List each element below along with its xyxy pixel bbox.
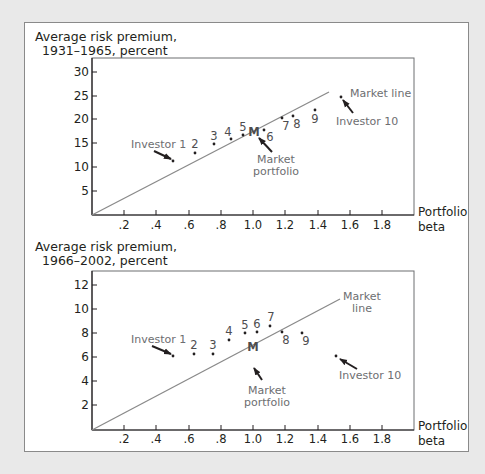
top-investor10-arrow-icon (343, 100, 353, 113)
top-point-label: 9 (311, 112, 318, 126)
bottom-xlabel-line1: Portfolio (418, 419, 467, 433)
bottom-xtick-label: 1.0 (244, 432, 262, 446)
top-ytick-label: 5 (81, 184, 89, 198)
top-ytick-label: 25 (74, 89, 89, 103)
bottom-title-line2: 1966–2002, percent (42, 253, 168, 268)
chart-bottom: Average risk premium, 1966–2002, percent… (35, 239, 467, 448)
top-xtick-label: 1.2 (276, 218, 294, 232)
top-xtick-label: .6 (184, 218, 195, 232)
top-title-line2: 1931–1965, percent (42, 43, 168, 58)
top-point-label: 8 (293, 117, 300, 131)
bottom-market-marker: M (247, 340, 258, 354)
bottom-xtick-label: .6 (184, 432, 195, 446)
bottom-point-label: 2 (190, 338, 197, 352)
top-point-label: 4 (224, 125, 231, 139)
bottom-xtick-label: 1.6 (341, 432, 359, 446)
bottom-y-ticks (92, 285, 97, 405)
figure-svg: Average risk premium, 1931–1965, percent… (0, 0, 485, 474)
bottom-xlabel-line2: beta (418, 434, 445, 448)
bottom-x-ticks (124, 425, 382, 430)
top-ytick-label: 20 (74, 112, 89, 126)
bottom-point-label: 9 (302, 334, 309, 348)
top-point-label: 7 (282, 119, 289, 133)
top-x-ticks (124, 210, 382, 215)
top-xlabel-line2: beta (418, 220, 445, 234)
top-title-line1: Average risk premium, (35, 29, 177, 44)
bottom-investor10-label: Investor 10 (339, 369, 401, 382)
top-investor1-arrow-icon (154, 151, 171, 159)
bottom-point-label: 7 (267, 310, 274, 324)
top-xtick-label: .4 (151, 218, 162, 232)
bottom-point-label: 4 (225, 324, 232, 338)
top-ytick-label: 15 (74, 136, 89, 150)
top-y-ticks (92, 72, 97, 191)
bottom-ytick-label: 12 (74, 278, 89, 292)
top-investor1-label: Investor 1 (131, 138, 186, 151)
top-xtick-label: 1.4 (309, 218, 327, 232)
chart-top: Average risk premium, 1931–1965, percent… (35, 29, 467, 234)
bottom-point-label: 6 (253, 317, 260, 331)
top-point-label: 5 (239, 120, 246, 134)
bottom-xtick-label: .2 (119, 432, 130, 446)
top-xtick-label: 1.0 (244, 218, 262, 232)
top-point-label: 6 (266, 130, 273, 144)
bottom-point-label: 5 (241, 318, 248, 332)
bottom-market-line-label-line2: line (352, 302, 372, 315)
top-investor10-label: Investor 10 (336, 115, 398, 128)
bottom-xtick-label: .4 (151, 432, 162, 446)
bottom-ytick-label: 8 (81, 326, 89, 340)
top-xtick-label: 1.8 (373, 218, 391, 232)
top-market-line-label: Market line (350, 87, 411, 100)
bottom-market-portfolio-arrow-icon (254, 368, 262, 380)
top-xlabel-line1: Portfolio (418, 205, 467, 219)
top-market-marker: M (248, 125, 259, 139)
bottom-xtick-label: 1.4 (309, 432, 327, 446)
bottom-ytick-label: 2 (81, 398, 89, 412)
bottom-point-label: 8 (282, 333, 289, 347)
bottom-ytick-label: 6 (81, 350, 89, 364)
bottom-investor10-arrow-icon (340, 359, 357, 369)
top-xtick-label: .2 (119, 218, 130, 232)
top-xtick-label: .8 (216, 218, 227, 232)
top-ytick-label: 30 (74, 65, 89, 79)
bottom-ytick-label: 10 (74, 302, 89, 316)
bottom-investor1-label: Investor 1 (131, 333, 186, 346)
bottom-investor1-arrow-icon (152, 346, 171, 354)
top-market-portfolio-label-line2: portfolio (253, 165, 299, 178)
bottom-ytick-label: 4 (81, 374, 89, 388)
top-ytick-label: 10 (74, 160, 89, 174)
bottom-xtick-label: 1.8 (373, 432, 391, 446)
bottom-market-line (92, 299, 340, 430)
bottom-xtick-label: .8 (216, 432, 227, 446)
bottom-title-line1: Average risk premium, (35, 239, 177, 254)
bottom-market-portfolio-label-line2: portfolio (244, 396, 290, 409)
top-point-label: 3 (210, 129, 217, 143)
top-point-label: 2 (191, 137, 198, 151)
bottom-xtick-label: 1.2 (276, 432, 294, 446)
bottom-point-label: 3 (209, 338, 216, 352)
top-xtick-label: 1.6 (341, 218, 359, 232)
